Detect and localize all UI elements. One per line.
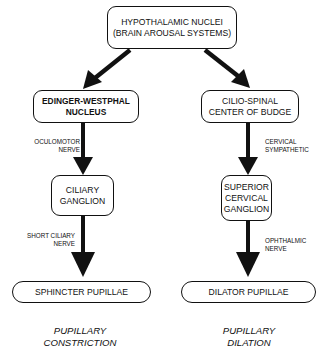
arrow-top-to-cilio (205, 50, 238, 76)
oculomotor-nerve-label: OCULOMOTOR NERVE (10, 138, 80, 154)
hypothalamic-nuclei-box: HYPOTHALAMIC NUCLEI (BRAIN AROUSAL SYSTE… (107, 6, 237, 49)
short-ciliary-line1: SHORT CILIARY (5, 232, 75, 240)
ciliary-line1: CILIARY (66, 185, 99, 196)
short-ciliary-line2: NERVE (5, 240, 75, 248)
cilio-spinal-box: CILIO-SPINAL CENTER OF BUDGE (201, 90, 299, 123)
hypothalamic-line1: HYPOTHALAMIC NUCLEI (121, 17, 223, 28)
cervical-line1: CERVICAL (265, 138, 309, 146)
dilator-pupillae-box: DILATOR PUPILLAE (181, 281, 316, 303)
dilation-line1: PUPILLARY (209, 325, 289, 337)
pupillary-dilation-label: PUPILLARY DILATION (209, 325, 289, 349)
constriction-line1: PUPILLARY (40, 325, 120, 337)
cervical-line2: SYMPATHETIC (265, 146, 309, 154)
arrow-top-to-edinger (95, 50, 130, 78)
edinger-line2: NUCLEUS (66, 107, 106, 118)
edinger-westphal-box: EDINGER-WESTPHAL NUCLEUS (33, 90, 139, 123)
short-ciliary-nerve-label: SHORT CILIARY NERVE (5, 232, 75, 248)
cilio-line2: CENTER OF BUDGE (209, 107, 292, 118)
superior-line2: CERVICAL (225, 193, 268, 204)
cervical-sympathetic-label: CERVICAL SYMPATHETIC (265, 138, 309, 154)
dilation-line2: DILATION (209, 337, 289, 349)
edinger-line1: EDINGER-WESTPHAL (42, 96, 130, 107)
sphincter-label: SPHINCTER PUPILLAE (35, 287, 128, 298)
constriction-line2: CONSTRICTION (40, 337, 120, 349)
ciliary-ganglion-box: CILIARY GANGLION (51, 175, 114, 216)
pupillary-constriction-label: PUPILLARY CONSTRICTION (40, 325, 120, 349)
ophthalmic-line1: OPHTHALMIC (265, 237, 306, 245)
superior-line1: SUPERIOR (224, 182, 269, 193)
oculomotor-line2: NERVE (10, 146, 80, 154)
dilator-label: DILATOR PUPILLAE (209, 287, 289, 298)
oculomotor-line1: OCULOMOTOR (10, 138, 80, 146)
superior-cervical-ganglion-box: SUPERIOR CERVICAL GANGLION (221, 175, 272, 221)
cilio-line1: CILIO-SPINAL (222, 96, 278, 107)
ciliary-line2: GANGLION (60, 196, 105, 207)
hypothalamic-line2: (BRAIN AROUSAL SYSTEMS) (113, 28, 231, 39)
ophthalmic-nerve-label: OPHTHALMIC NERVE (265, 237, 306, 253)
ophthalmic-line2: NERVE (265, 245, 306, 253)
sphincter-pupillae-box: SPHINCTER PUPILLAE (12, 281, 151, 303)
superior-line3: GANGLION (224, 204, 269, 215)
